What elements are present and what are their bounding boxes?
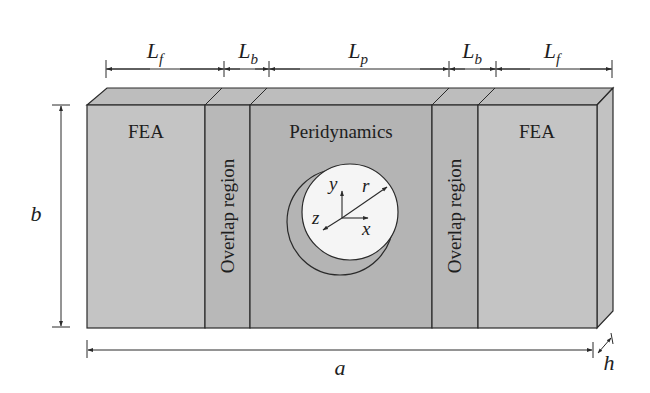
plate-top-face xyxy=(87,88,613,105)
height-dimension-line xyxy=(52,105,70,327)
dim-label-lb-right: Lb xyxy=(461,38,482,67)
dim-label-lf-left: Lf xyxy=(146,38,165,67)
dim-label-a: a xyxy=(335,355,346,380)
label-fea-left: FEA xyxy=(128,121,164,142)
axis-label-x: x xyxy=(361,218,371,239)
dim-label-b: b xyxy=(31,201,42,226)
label-peridynamics: Peridynamics xyxy=(289,121,392,142)
radius-label: r xyxy=(362,175,370,196)
label-fea-right: FEA xyxy=(519,121,555,142)
label-overlap-right: Overlap region xyxy=(444,158,465,273)
axis-label-y: y xyxy=(327,173,338,194)
plate-diagram: FEA Overlap region Peridynamics Overlap … xyxy=(0,0,650,393)
axis-label-z: z xyxy=(311,207,320,228)
dim-label-lp: Lp xyxy=(347,38,368,67)
dim-label-h: h xyxy=(604,350,615,375)
plate-side-face xyxy=(597,88,613,328)
label-overlap-left: Overlap region xyxy=(217,158,238,273)
dim-label-lf-right: Lf xyxy=(543,38,562,67)
dim-label-lb-left: Lb xyxy=(237,38,258,67)
